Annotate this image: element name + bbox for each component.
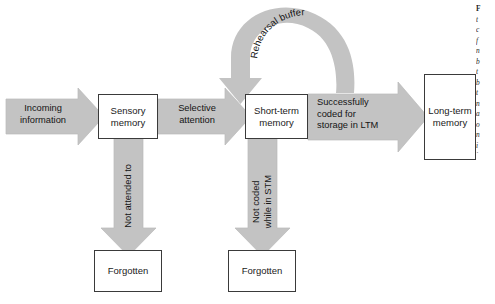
- caption-line: n: [476, 130, 495, 141]
- caption-line: n: [476, 46, 495, 57]
- diagram-canvas: .ar{fill:#c3c3c3;stroke:#b9b9b9;stroke-w…: [0, 0, 495, 304]
- caption-line: t: [476, 88, 495, 99]
- caption-line: i: [476, 151, 495, 154]
- caption-line: F: [476, 4, 495, 15]
- caption-line: t: [476, 15, 495, 26]
- caption-line: f: [476, 36, 495, 47]
- caption-line: i: [476, 141, 495, 152]
- caption-line: a: [476, 109, 495, 120]
- caption-line: b: [476, 57, 495, 68]
- rehearsal-buffer-text-layer: Rehearsal buffer: [0, 0, 495, 304]
- caption-line: b: [476, 78, 495, 89]
- figure-caption-cropped: Ftcfnbtbtnaoniini: [476, 4, 495, 154]
- caption-line: c: [476, 25, 495, 36]
- caption-line: n: [476, 99, 495, 110]
- caption-line: t: [476, 67, 495, 78]
- caption-line: o: [476, 120, 495, 131]
- arrow-label-rehearsal-buffer: Rehearsal buffer: [248, 6, 305, 59]
